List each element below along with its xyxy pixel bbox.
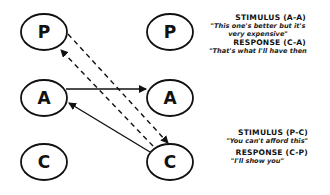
left-adult-label: A xyxy=(37,88,51,108)
top-caption: STIMULUS (A-A) "This one's better but it… xyxy=(194,13,322,55)
top-stimulus-quote-line1: "This one's better but it's xyxy=(194,22,322,30)
right-parent-node: P xyxy=(147,14,193,50)
right-adult-node: A xyxy=(147,80,193,116)
left-child-node: C xyxy=(21,144,67,180)
top-stimulus-title: STIMULUS (A-A) xyxy=(194,13,322,22)
bottom-response-title: RESPONSE (C-P) xyxy=(194,148,322,157)
bottom-caption: STIMULUS (P-C) "You can't afford this" R… xyxy=(194,128,322,165)
top-stimulus-quote-line2: very expensive" xyxy=(194,30,322,38)
arrow-right-child-to-left-parent xyxy=(61,50,153,146)
right-child-label: C xyxy=(164,152,176,172)
bottom-stimulus-quote: "You can't afford this" xyxy=(194,137,322,145)
right-child-node: C xyxy=(147,144,193,180)
top-response-quote: "That's what I'll have then xyxy=(194,47,322,55)
left-adult-node: A xyxy=(21,80,67,116)
right-parent-label: P xyxy=(164,22,176,42)
bottom-response-quote: "I'll show you" xyxy=(194,157,322,165)
right-adult-label: A xyxy=(163,88,177,108)
bottom-stimulus-title: STIMULUS (P-C) xyxy=(194,128,322,137)
left-child-label: C xyxy=(38,152,50,172)
top-response-title: RESPONSE (C-A) xyxy=(194,38,322,47)
left-parent-node: P xyxy=(21,14,67,50)
left-parent-label: P xyxy=(38,22,50,42)
